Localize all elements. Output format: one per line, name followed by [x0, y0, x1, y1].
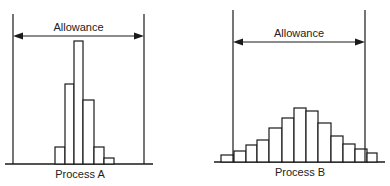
arrowhead-right-icon	[355, 39, 365, 46]
histogram-bar	[318, 123, 331, 162]
histogram-bar	[282, 118, 294, 162]
allowance-label: Allowance	[53, 21, 103, 33]
process-caption: Process B	[275, 166, 325, 178]
process-caption: Process A	[55, 168, 105, 180]
allowance-label: Allowance	[274, 27, 324, 39]
histogram-bar	[343, 144, 355, 162]
histogram-bar	[221, 155, 234, 162]
arrowhead-left-icon	[233, 39, 243, 46]
histogram-bar	[104, 158, 114, 164]
histogram-bar	[306, 111, 318, 162]
histogram-bar	[234, 151, 246, 162]
histogram-bar	[269, 128, 282, 162]
histogram-bar	[331, 136, 343, 162]
process-capability-diagram: AllowanceProcess AAllowanceProcess B	[0, 0, 390, 186]
histogram-bar	[294, 108, 306, 162]
histogram-bar	[83, 100, 94, 164]
histogram-bar	[257, 140, 269, 162]
histogram-bar	[246, 145, 257, 162]
arrowhead-right-icon	[134, 33, 144, 40]
histogram-bar	[74, 41, 83, 164]
histogram-bar	[94, 147, 104, 164]
histogram-bar	[65, 84, 74, 164]
histogram-bar	[367, 153, 377, 162]
histogram-bar	[55, 147, 65, 164]
panel-process-b: AllowanceProcess B	[214, 10, 385, 178]
panel-process-a: AllowanceProcess A	[5, 14, 153, 180]
arrowhead-left-icon	[13, 33, 23, 40]
